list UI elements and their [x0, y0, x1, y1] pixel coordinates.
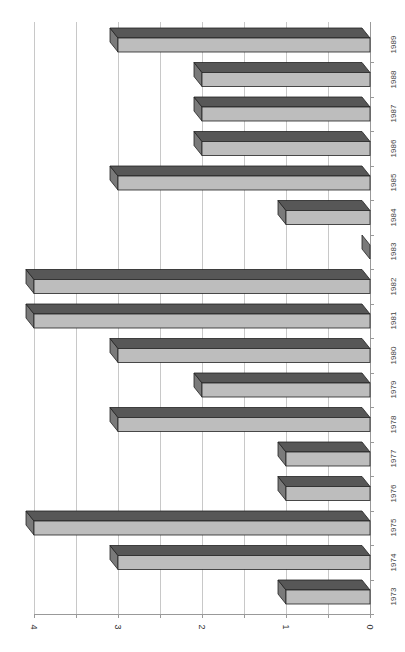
bar-chart: 01234 1973197419751976197719781979198019… — [0, 0, 405, 652]
bar-1989 — [0, 0, 405, 652]
